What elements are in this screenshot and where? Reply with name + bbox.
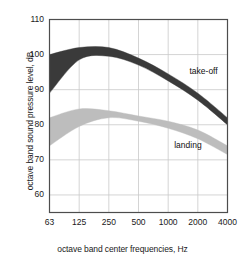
- y-tick-label: 70: [18, 154, 44, 164]
- x-axis-title: octave band center frequencies, Hz: [0, 244, 245, 254]
- chart-figure: octave band sound pressure level, dB oct…: [0, 0, 245, 266]
- y-tick-label: 60: [18, 189, 44, 199]
- series-label-take-off: take-off: [189, 66, 217, 76]
- y-tick-label: 110: [18, 14, 44, 24]
- y-tick-label: 80: [18, 119, 44, 129]
- y-tick-label: 90: [18, 84, 44, 94]
- series-label-landing: landing: [174, 140, 201, 150]
- x-tick-label: 4000: [211, 217, 245, 227]
- y-tick-label: 100: [18, 49, 44, 59]
